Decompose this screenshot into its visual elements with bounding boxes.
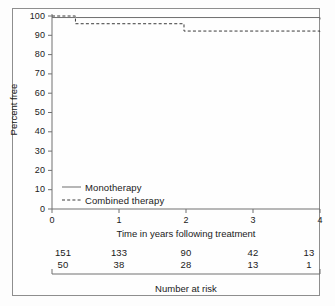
risk-table-value: 42 xyxy=(236,248,270,257)
y-axis-tick-label: 50 xyxy=(19,108,45,117)
y-axis-tick-label: 90 xyxy=(19,31,45,40)
risk-table-value: 50 xyxy=(46,260,80,269)
y-axis-title: Percent free xyxy=(8,75,19,145)
y-axis-tick-label: 10 xyxy=(19,185,45,194)
series-line-combined-therapy xyxy=(52,16,320,31)
x-axis-tick-label: 3 xyxy=(245,216,261,225)
risk-table-caption: Number at risk xyxy=(52,283,320,294)
legend-marks xyxy=(62,187,81,200)
risk-table-value: 151 xyxy=(46,248,80,257)
risk-table-value: 1 xyxy=(292,260,326,269)
risk-table-value: 13 xyxy=(292,248,326,257)
x-axis-tick-label: 1 xyxy=(111,216,127,225)
curve-layer xyxy=(52,16,320,31)
x-axis-tick-label: 4 xyxy=(312,216,328,225)
y-axis-tick-label: 70 xyxy=(19,69,45,78)
legend-label-monotherapy: Monotherapy xyxy=(85,183,142,192)
risk-table-value: 28 xyxy=(169,260,203,269)
x-axis-tick-label: 2 xyxy=(178,216,194,225)
figure-panel: 0102030405060708090100 Percent free 0123… xyxy=(0,0,335,306)
risk-table-value: 90 xyxy=(169,248,203,257)
y-axis-tick-label: 100 xyxy=(19,12,45,21)
y-axis-tick-label: 40 xyxy=(19,127,45,136)
series-line-monotherapy xyxy=(52,18,320,20)
legend-label-combined-therapy: Combined therapy xyxy=(85,196,164,205)
x-axis-title: Time in years following treatment xyxy=(52,228,320,239)
y-axis-tick-label: 0 xyxy=(19,205,45,214)
y-axis-tick-label: 60 xyxy=(19,89,45,98)
risk-table-value: 133 xyxy=(102,248,136,257)
risk-table-value: 13 xyxy=(236,260,270,269)
y-axis-tick-label: 30 xyxy=(19,147,45,156)
risk-table-value: 38 xyxy=(102,260,136,269)
y-axis-tick-label: 80 xyxy=(19,50,45,59)
y-axis-tick-label: 20 xyxy=(19,166,45,175)
x-axis-tick-label: 0 xyxy=(44,216,60,225)
